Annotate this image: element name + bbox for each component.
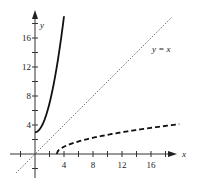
y-axis-label: y (39, 20, 44, 30)
x-tick-label: 4 (62, 160, 67, 170)
y-tick-label: 8 (27, 91, 32, 101)
y-tick-label: 4 (27, 120, 32, 130)
chart: 4 8 12 16 4 8 12 16 x y y = x (0, 0, 198, 186)
y-axis-arrow-icon (32, 10, 38, 19)
function-curve (35, 16, 64, 132)
y-tick-labels: 4 8 12 16 (22, 33, 32, 130)
x-tick-labels: 4 8 12 16 (62, 160, 156, 170)
identity-line (16, 18, 171, 173)
x-tick-label: 16 (147, 160, 157, 170)
y-tick-label: 12 (22, 62, 31, 72)
x-axis-label: x (181, 149, 186, 159)
identity-line-label: y = x (151, 44, 171, 54)
y-tick-label: 16 (22, 33, 32, 43)
x-tick-label: 12 (118, 160, 127, 170)
x-axis-arrow-icon (168, 151, 177, 157)
inverse-curve (57, 124, 180, 154)
x-tick-label: 8 (91, 160, 96, 170)
